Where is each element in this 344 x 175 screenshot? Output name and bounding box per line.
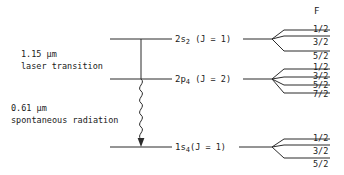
level-label-2s2: 2s2 (J = 1) (175, 34, 231, 47)
level-label-2p4: 2p4 (J = 2) (175, 74, 231, 87)
level-jterm-2s2: (J = 1) (195, 34, 231, 44)
hyperfine-value-2s2-1: 1/2 (313, 25, 328, 34)
hyperfine-value-2s2-3: 5/2 (313, 52, 328, 61)
spontaneous-radiation-arrowhead (138, 138, 145, 147)
level-label-1s4: 1s4(J = 1) (175, 142, 226, 155)
hyperfine-column-header: F (314, 6, 319, 16)
spontaneous-radiation-wavelength: 0.61 µm (11, 103, 47, 115)
energy-level-diagram: F 1.15 µm laser transition 0.61 µm spont… (0, 0, 344, 175)
spontaneous-radiation-wave (140, 79, 143, 139)
spontaneous-radiation-description: spontaneous radiation (11, 115, 118, 127)
level-term-2p4: 2p (175, 74, 186, 84)
hyperfine-value-2s2-2: 3/2 (313, 38, 328, 47)
level-term-1s4: 1s (175, 142, 186, 152)
laser-transition-description: laser transition (21, 61, 103, 73)
hyperfine-value-2p4-4: 7/2 (313, 90, 328, 99)
hyperfine-value-1s4-1: 1/2 (313, 134, 328, 143)
diagram-vector-layer (0, 0, 344, 175)
hyperfine-value-1s4-3: 5/2 (313, 160, 328, 169)
laser-transition-wavelength: 1.15 µm (21, 49, 57, 61)
level-jterm-2p4: (J = 2) (195, 74, 231, 84)
level-jterm-1s4: (J = 1) (190, 142, 226, 152)
hyperfine-value-1s4-2: 3/2 (313, 147, 328, 156)
level-term-2s2: 2s (175, 34, 186, 44)
